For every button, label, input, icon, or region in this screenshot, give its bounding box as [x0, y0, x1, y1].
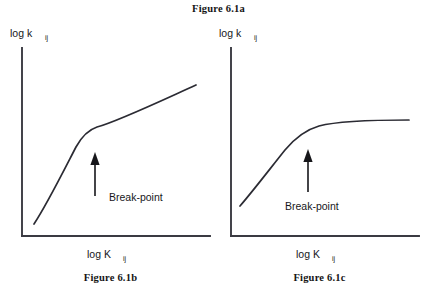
- figure-main-title: Figure 6.1a: [0, 3, 437, 14]
- chart-panel-left: log k ij log K ij Break-point Figure 6.1…: [4, 20, 217, 299]
- data-curve-right: [240, 120, 409, 206]
- y-axis-label-sub-right: ij: [254, 34, 258, 42]
- x-axis-label-left: log K: [87, 248, 111, 260]
- chart-right-svg: log k ij log K ij Break-point: [213, 20, 426, 270]
- data-curve-left: [34, 85, 196, 224]
- y-axis-label-sub-left: ij: [45, 34, 49, 42]
- x-axis-label-sub-right: ij: [332, 255, 336, 263]
- y-axis-label-left: log k: [10, 27, 33, 39]
- figure-root: Figure 6.1a log k ij log K ij Break-poin…: [0, 0, 437, 299]
- break-point-arrow-left: [90, 152, 99, 196]
- break-point-label-left: Break-point: [109, 191, 163, 203]
- figure-caption-right: Figure 6.1c: [213, 272, 426, 283]
- x-axis-label-right: log K: [296, 248, 320, 260]
- break-point-arrow-head-left: [90, 152, 99, 165]
- chart-panel-right: log k ij log K ij Break-point Figure 6.1…: [213, 20, 426, 299]
- break-point-label-right: Break-point: [285, 200, 339, 212]
- break-point-arrow-right: [303, 149, 312, 192]
- y-axis-label-right: log k: [219, 27, 242, 39]
- x-axis-label-sub-left: ij: [123, 255, 127, 263]
- break-point-arrow-head-right: [303, 149, 312, 162]
- chart-left-svg: log k ij log K ij Break-point: [4, 20, 217, 270]
- figure-caption-left: Figure 6.1b: [4, 272, 217, 283]
